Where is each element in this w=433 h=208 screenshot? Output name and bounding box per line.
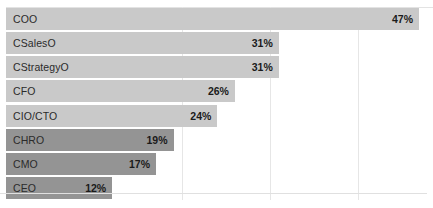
bar-coo[interactable] [6,8,419,30]
bar-value-label: 17% [120,153,150,175]
bar-value-label: 47% [383,8,413,30]
x-axis-line [0,193,427,194]
bar-category-label: CIO/CTO [13,105,57,127]
bar-row: COO47% [6,8,433,30]
bar-category-label: CFO [13,80,35,102]
bar-category-label: CStrategyO [13,56,69,78]
horizontal-bar-chart: COO47%CSalesO31%CStrategyO31%CFO26%CIO/C… [0,0,433,208]
bar-row: CMO17% [6,153,433,175]
bar-value-label: 31% [243,32,273,54]
bar-value-label: 31% [243,56,273,78]
bar-category-label: CSalesO [13,32,56,54]
plot-area: COO47%CSalesO31%CStrategyO31%CFO26%CIO/C… [6,7,433,200]
bars-layer: COO47%CSalesO31%CStrategyO31%CFO26%CIO/C… [6,7,433,200]
bar-value-label: 19% [138,129,168,151]
bar-value-label: 26% [199,80,229,102]
bar-category-label: CEO [13,177,36,199]
bar-category-label: CMO [13,153,38,175]
bar-row: CSalesO31% [6,32,433,54]
bar-row: CHRO19% [6,129,433,151]
bar-row: CStrategyO31% [6,56,433,78]
bar-row: CIO/CTO24% [6,105,433,127]
bar-category-label: CHRO [13,129,44,151]
bar-category-label: COO [13,8,37,30]
bar-value-label: 12% [76,177,106,199]
bar-value-label: 24% [181,105,211,127]
bar-row: CFO26% [6,80,433,102]
bar-row: CEO12% [6,177,433,199]
